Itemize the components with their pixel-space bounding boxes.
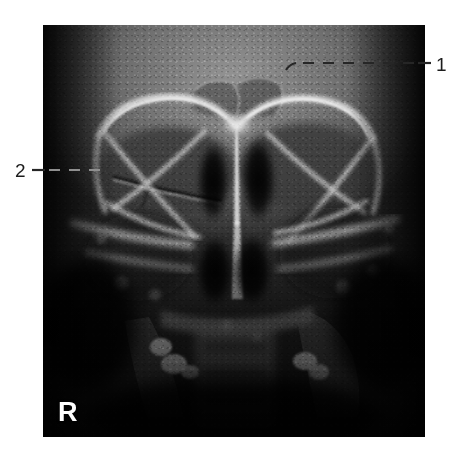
- radiograph-image: R: [43, 25, 425, 437]
- radiograph-figure: R 1 2: [0, 0, 465, 463]
- laterality-marker-r: R: [58, 399, 78, 426]
- callout-label-1: 1: [436, 55, 447, 74]
- film-grain-layer: [43, 25, 425, 437]
- callout-label-2: 2: [15, 161, 26, 180]
